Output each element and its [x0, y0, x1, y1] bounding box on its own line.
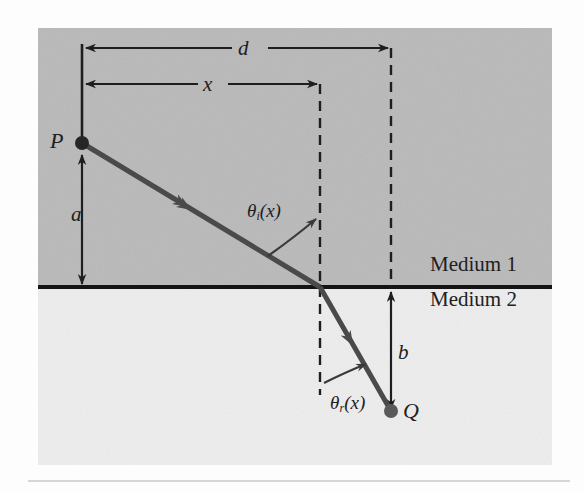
- theta-incident-label: θi(x): [247, 200, 281, 224]
- point-p-label: P: [50, 128, 63, 154]
- theta-incident-symbol: θ: [247, 200, 256, 221]
- point-p-dot: [75, 136, 89, 150]
- point-q-dot: [384, 404, 398, 418]
- distance-a-label: a: [71, 202, 82, 227]
- medium-2-label: Medium 2: [430, 287, 517, 312]
- theta-incident-argument: (x): [260, 200, 281, 221]
- figure-page: P Q a b d x θi(x) θr(x) Medium 1 Medium …: [0, 0, 584, 492]
- distance-d-label: d: [238, 36, 249, 61]
- medium-1-region: [38, 28, 552, 287]
- theta-refracted-argument: (x): [344, 392, 365, 413]
- theta-refracted-symbol: θ: [330, 392, 339, 413]
- theta-refracted-label: θr(x): [330, 392, 365, 416]
- distance-b-label: b: [398, 340, 409, 365]
- medium-1-label: Medium 1: [430, 252, 517, 277]
- medium-2-region: [38, 287, 552, 465]
- point-q-label: Q: [403, 398, 419, 424]
- refraction-diagram: [0, 0, 584, 492]
- distance-x-label: x: [203, 72, 212, 97]
- media-regions: [38, 28, 552, 465]
